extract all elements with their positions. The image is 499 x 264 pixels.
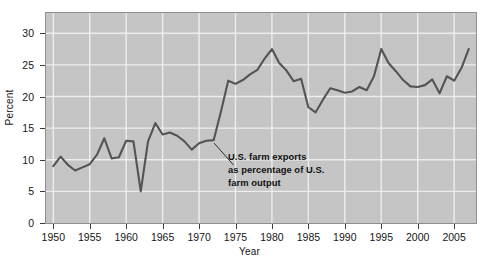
series-callout-label: U.S. farm exports as percentage of U.S. … bbox=[228, 150, 378, 190]
x-axis-title: Year bbox=[0, 246, 499, 257]
y-tick-label: 5 bbox=[4, 186, 34, 196]
x-tick-label: 2000 bbox=[398, 231, 438, 243]
chart-figure: 051015202530 195019551960196519701975198… bbox=[0, 0, 499, 264]
x-tick-label: 1950 bbox=[33, 231, 73, 243]
callout-line-2: as percentage of U.S. bbox=[228, 163, 378, 176]
x-tick-mark bbox=[418, 224, 419, 229]
y-tick-mark bbox=[40, 160, 45, 161]
plot-area bbox=[45, 12, 477, 224]
x-tick-label: 1985 bbox=[288, 231, 328, 243]
x-tick-mark bbox=[381, 224, 382, 229]
y-tick-label: 0 bbox=[4, 218, 34, 228]
y-tick-mark bbox=[40, 97, 45, 98]
y-tick-mark bbox=[40, 128, 45, 129]
x-tick-mark bbox=[272, 224, 273, 229]
y-tick-mark bbox=[40, 65, 45, 66]
x-tick-label: 1970 bbox=[179, 231, 219, 243]
x-tick-mark bbox=[163, 224, 164, 229]
chart-canvas bbox=[46, 13, 476, 223]
y-tick-label: 30 bbox=[4, 28, 34, 38]
y-tick-mark bbox=[40, 33, 45, 34]
x-tick-label: 1965 bbox=[143, 231, 183, 243]
x-tick-label: 1960 bbox=[106, 231, 146, 243]
y-tick-label: 25 bbox=[4, 60, 34, 70]
x-tick-mark bbox=[236, 224, 237, 229]
callout-line-1: U.S. farm exports bbox=[228, 150, 378, 163]
y-tick-mark bbox=[40, 191, 45, 192]
x-tick-mark bbox=[199, 224, 200, 229]
x-tick-label: 2005 bbox=[434, 231, 474, 243]
x-tick-mark bbox=[53, 224, 54, 229]
x-tick-label: 1995 bbox=[361, 231, 401, 243]
y-axis-title: Percent bbox=[4, 78, 15, 138]
x-tick-mark bbox=[308, 224, 309, 229]
x-tick-mark bbox=[454, 224, 455, 229]
x-tick-mark bbox=[345, 224, 346, 229]
x-tick-label: 1955 bbox=[70, 231, 110, 243]
x-tick-mark bbox=[126, 224, 127, 229]
x-tick-mark bbox=[90, 224, 91, 229]
x-tick-label: 1990 bbox=[325, 231, 365, 243]
x-tick-label: 1975 bbox=[216, 231, 256, 243]
y-tick-label: 10 bbox=[4, 155, 34, 165]
callout-line-3: farm output bbox=[228, 176, 378, 189]
x-tick-label: 1980 bbox=[252, 231, 292, 243]
y-tick-mark bbox=[40, 223, 45, 224]
